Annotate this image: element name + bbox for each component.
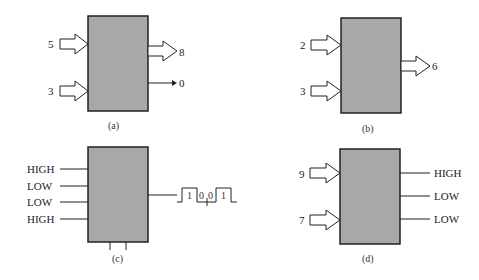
output-bus-arrow-a1 xyxy=(148,41,177,61)
output-bus-arrow-b1 xyxy=(401,56,430,76)
input-bus-arrow-d2 xyxy=(310,210,340,230)
logic-block-figure: 5 3 8 0 (a) 2 3 6 (b) HIGH LOW LOW HIGH xyxy=(0,0,479,280)
output-label-d1: HIGH xyxy=(434,167,462,179)
input-label-c1: HIGH xyxy=(27,163,55,175)
input-label-a2: 3 xyxy=(48,85,54,97)
function-block-c xyxy=(88,147,148,242)
output-label-a1: 8 xyxy=(179,46,185,58)
input-label-d1: 9 xyxy=(299,168,305,180)
function-block-a xyxy=(88,16,148,111)
waveform-bit-2: 0 xyxy=(199,190,204,201)
caption-a: (a) xyxy=(108,120,119,132)
input-label-c3: LOW xyxy=(27,196,53,208)
output-label-a2: 0 xyxy=(179,77,185,89)
function-block-b xyxy=(341,18,401,113)
panel-a: 5 3 8 0 (a) xyxy=(48,16,185,132)
panel-c: HIGH LOW LOW HIGH 1 0 0 1 (c) xyxy=(27,147,237,265)
input-label-b1: 2 xyxy=(300,39,306,51)
input-label-b2: 3 xyxy=(300,85,306,97)
input-label-a1: 5 xyxy=(48,38,54,50)
input-label-c2: LOW xyxy=(27,180,53,192)
input-label-d2: 7 xyxy=(299,214,305,226)
caption-b: (b) xyxy=(362,123,374,135)
input-bus-arrow-a2 xyxy=(60,81,88,101)
output-label-d3: LOW xyxy=(434,213,460,225)
output-label-d2: LOW xyxy=(434,190,460,202)
caption-d: (d) xyxy=(362,253,374,265)
input-label-c4: HIGH xyxy=(27,213,55,225)
caption-c: (c) xyxy=(112,253,123,265)
input-bus-arrow-a1 xyxy=(60,34,88,54)
arrowhead-icon xyxy=(172,80,177,86)
waveform-bit-4: 1 xyxy=(221,190,226,201)
output-label-b1: 6 xyxy=(432,60,438,72)
waveform-bit-3: 0 xyxy=(208,190,213,201)
input-bus-arrow-b2 xyxy=(311,81,341,101)
function-block-d xyxy=(340,149,400,244)
panel-b: 2 3 6 (b) xyxy=(300,18,438,135)
input-bus-arrow-b1 xyxy=(311,35,341,55)
input-bus-arrow-d1 xyxy=(310,163,340,183)
waveform-bit-1: 1 xyxy=(187,190,192,201)
panel-d: 9 7 HIGH LOW LOW (d) xyxy=(299,149,462,265)
